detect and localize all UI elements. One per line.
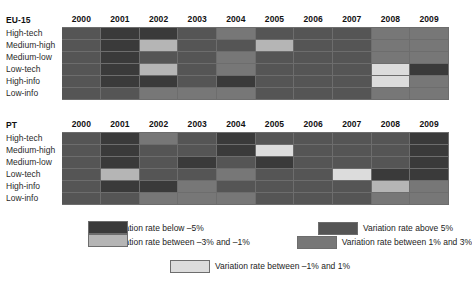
column-header-year: 2005 <box>255 116 294 133</box>
heatmap-cell <box>178 133 217 145</box>
heatmap-cell <box>255 52 294 64</box>
heatmap-cell <box>255 193 294 205</box>
table-header-pt: PT 2000 2001 2002 2003 2004 2005 2006 20… <box>4 116 449 133</box>
legend-label-between-1-3: Variation rate between 1% and 3% <box>337 237 472 247</box>
heatmap-cell <box>178 76 217 88</box>
heatmap-cell <box>255 145 294 157</box>
heatmap-cell <box>101 88 140 100</box>
column-header-year: 2007 <box>332 116 371 133</box>
heatmap-cell <box>139 40 178 52</box>
heatmap-cell <box>178 157 217 169</box>
row-label: Medium-low <box>4 52 62 64</box>
legend-label-above-5: Variation rate above 5% <box>358 223 453 233</box>
legend-swatch-between-minus1-1 <box>170 260 210 273</box>
heatmap-cell <box>371 157 410 169</box>
legend-label-below-minus5: Variation rate below –5% <box>110 223 277 233</box>
legend-label-between-minus3-minus1: Variation rate between –3% and –1% <box>110 237 256 247</box>
column-header-year: 2009 <box>410 116 449 133</box>
column-header-year: 2006 <box>294 11 333 28</box>
heatmap-cell <box>371 28 410 40</box>
heatmap-cell <box>139 181 178 193</box>
heatmap-table-pt: PT 2000 2001 2002 2003 2004 2005 2006 20… <box>4 116 449 205</box>
heatmap-cell <box>178 193 217 205</box>
heatmap-cell <box>62 145 101 157</box>
panel-pt: PT 2000 2001 2002 2003 2004 2005 2006 20… <box>4 116 449 205</box>
heatmap-cell <box>410 64 449 76</box>
column-header-year: 2007 <box>332 11 371 28</box>
heatmap-cell <box>410 52 449 64</box>
heatmap-cell <box>217 181 256 193</box>
heatmap-cell <box>178 88 217 100</box>
column-header-year: 2009 <box>410 11 449 28</box>
row-label: High-tech <box>4 133 62 145</box>
legend-entry-between-minus1-1: Variation rate between –1% and 1% <box>170 260 350 273</box>
heatmap-cell <box>62 64 101 76</box>
heatmap-table-eu15: EU-15 2000 2001 2002 2003 2004 2005 2006… <box>4 11 449 100</box>
heatmap-cell <box>255 181 294 193</box>
heatmap-cell <box>255 133 294 145</box>
row-label: High-tech <box>4 28 62 40</box>
heatmap-cell <box>62 40 101 52</box>
column-header-year: 2001 <box>101 11 140 28</box>
heatmap-cell <box>62 181 101 193</box>
table-row: Low-tech <box>4 64 449 76</box>
row-label: Low-tech <box>4 64 62 76</box>
heatmap-cell <box>255 64 294 76</box>
column-header-year: 2005 <box>255 11 294 28</box>
row-label: Medium-low <box>4 157 62 169</box>
heatmap-cell <box>294 64 333 76</box>
column-header-year: 2002 <box>139 116 178 133</box>
heatmap-cell <box>62 193 101 205</box>
column-header-year: 2000 <box>62 116 101 133</box>
heatmap-cell <box>410 181 449 193</box>
heatmap-cell <box>139 157 178 169</box>
heatmap-cell <box>101 181 140 193</box>
heatmap-cell <box>62 157 101 169</box>
row-label: Low-info <box>4 88 62 100</box>
panel-title-eu15: EU-15 <box>4 11 62 28</box>
heatmap-cell <box>217 40 256 52</box>
heatmap-cell <box>294 76 333 88</box>
table-row: High-tech <box>4 28 449 40</box>
heatmap-cell <box>371 76 410 88</box>
heatmap-cell <box>178 28 217 40</box>
heatmap-cell <box>332 133 371 145</box>
heatmap-cell <box>371 193 410 205</box>
heatmap-cell <box>255 157 294 169</box>
heatmap-cell <box>217 169 256 181</box>
heatmap-cell <box>62 169 101 181</box>
heatmap-cell <box>62 76 101 88</box>
heatmap-cell <box>294 181 333 193</box>
heatmap-cell <box>62 52 101 64</box>
heatmap-cell <box>62 133 101 145</box>
legend-swatch-above-5 <box>318 222 358 235</box>
heatmap-cell <box>101 133 140 145</box>
legend-swatch-below-minus5 <box>88 221 128 234</box>
heatmap-cell <box>332 76 371 88</box>
heatmap-cell <box>332 169 371 181</box>
heatmap-cell <box>410 193 449 205</box>
row-label: Medium-high <box>4 40 62 52</box>
heatmap-cell <box>217 76 256 88</box>
row-label: Medium-high <box>4 145 62 157</box>
heatmap-cell <box>371 52 410 64</box>
heatmap-cell <box>294 133 333 145</box>
column-header-year: 2008 <box>371 116 410 133</box>
heatmap-cell <box>410 169 449 181</box>
legend-swatch-between-1-3 <box>297 236 337 249</box>
heatmap-cell <box>217 133 256 145</box>
heatmap-cell <box>101 169 140 181</box>
heatmap-cell <box>371 40 410 52</box>
row-label: Low-tech <box>4 169 62 181</box>
heatmap-cell <box>255 169 294 181</box>
heatmap-cell <box>62 28 101 40</box>
heatmap-cell <box>217 157 256 169</box>
heatmap-cell <box>139 133 178 145</box>
heatmap-cell <box>371 133 410 145</box>
panel-eu15: EU-15 2000 2001 2002 2003 2004 2005 2006… <box>4 11 449 100</box>
heatmap-cell <box>101 40 140 52</box>
column-header-year: 2006 <box>294 116 333 133</box>
column-header-year: 2008 <box>371 11 410 28</box>
heatmap-cell <box>294 28 333 40</box>
